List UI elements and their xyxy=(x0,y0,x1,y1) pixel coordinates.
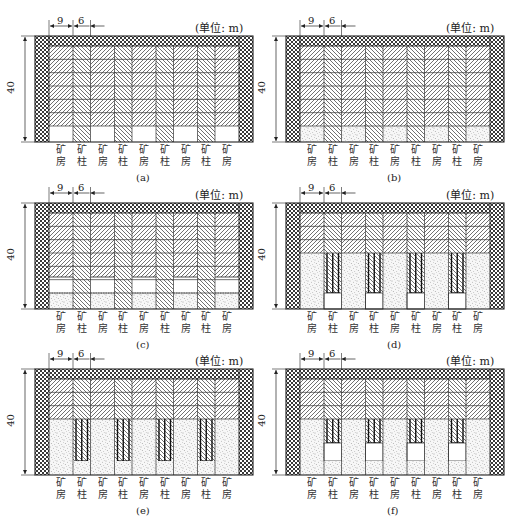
dim-room-width: 9 xyxy=(308,348,314,359)
backfill xyxy=(425,419,449,475)
dim-pillar-width: 6 xyxy=(329,348,335,359)
panel-f: 9640(单位: m)矿房矿柱矿房矿柱矿房矿柱矿房矿柱矿房(f) xyxy=(0,0,523,532)
column-label-top: 矿 xyxy=(347,477,361,489)
column-label-pillar: 矿柱 xyxy=(326,477,340,501)
mined-void xyxy=(407,443,425,461)
column-label-top: 矿 xyxy=(430,477,444,489)
column-label-top: 矿 xyxy=(326,477,340,489)
column-label-bottom: 房 xyxy=(430,489,444,501)
column-label-top: 矿 xyxy=(367,477,381,489)
column-label-bottom: 房 xyxy=(471,489,485,501)
column-label-room: 矿房 xyxy=(388,477,402,501)
barrier-pillar-right xyxy=(490,369,504,475)
backfill xyxy=(466,419,490,475)
backfill xyxy=(449,461,467,475)
roof-pillar-crosshatch xyxy=(286,369,504,379)
column-label-room: 矿房 xyxy=(430,477,444,501)
backfill xyxy=(342,419,366,475)
column-label-top: 矿 xyxy=(450,477,464,489)
panel-f-drawing xyxy=(0,0,523,532)
column-label-pillar: 矿柱 xyxy=(367,477,381,501)
column-label-top: 矿 xyxy=(471,477,485,489)
backfill xyxy=(383,419,407,475)
unit-label: (单位: m) xyxy=(446,352,494,368)
backfill xyxy=(407,461,425,475)
mined-void xyxy=(324,443,342,461)
column-label-bottom: 房 xyxy=(388,489,402,501)
column-label-top: 矿 xyxy=(305,477,319,489)
backfill xyxy=(324,461,342,475)
column-label-bottom: 柱 xyxy=(450,489,464,501)
mined-void xyxy=(366,443,384,461)
column-label-pillar: 矿柱 xyxy=(450,477,464,501)
column-label-bottom: 房 xyxy=(305,489,319,501)
column-label-room: 矿房 xyxy=(471,477,485,501)
mined-void xyxy=(449,443,467,461)
column-label-bottom: 房 xyxy=(347,489,361,501)
backfill xyxy=(366,461,384,475)
column-label-room: 矿房 xyxy=(347,477,361,501)
column-label-pillar: 矿柱 xyxy=(409,477,423,501)
barrier-pillar-left xyxy=(286,369,300,475)
backfill xyxy=(300,419,324,475)
column-label-room: 矿房 xyxy=(305,477,319,501)
column-label-bottom: 柱 xyxy=(326,489,340,501)
column-label-bottom: 柱 xyxy=(409,489,423,501)
column-label-bottom: 柱 xyxy=(367,489,381,501)
dim-height: 40 xyxy=(256,414,267,427)
column-label-top: 矿 xyxy=(388,477,402,489)
column-label-top: 矿 xyxy=(409,477,423,489)
panel-caption: (f) xyxy=(387,505,399,516)
